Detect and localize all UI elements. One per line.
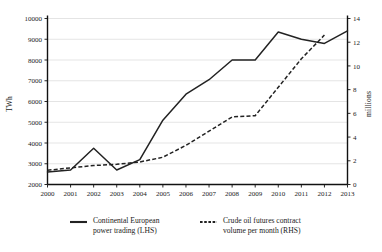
right-axis-tick-label: 8 (353, 86, 357, 94)
x-axis-tick-label: 2000 (41, 190, 56, 198)
x-axis-tick-label: 2005 (156, 190, 171, 198)
left-axis-tick-label: 10000 (25, 15, 43, 23)
dual-axis-line-chart: 2000300040005000600070008000900010000 02… (0, 0, 382, 252)
x-axis-tick-label: 2013 (341, 190, 356, 198)
x-axis-tick-label: 2011 (294, 190, 308, 198)
legend-label-line1: Continental European (93, 216, 160, 225)
left-axis-tick-label: 3000 (28, 160, 43, 168)
left-axis-tick-label: 6000 (28, 98, 43, 106)
right-axis-tick-label: 6 (353, 110, 357, 118)
left-axis-tick-label: 8000 (28, 57, 43, 65)
x-axis-tick-label: 2002 (87, 190, 102, 198)
x-axis-tick-label: 2009 (248, 190, 263, 198)
right-axis-tick-label: 12 (353, 39, 361, 47)
x-axis-tick-label: 2012 (317, 190, 332, 198)
legend-label-line2: power trading (LHS) (93, 226, 157, 235)
right-axis-tick-label: 4 (353, 134, 357, 142)
x-axis-tick-label: 2010 (271, 190, 286, 198)
left-axis-tick-label: 9000 (28, 36, 43, 44)
x-axis-tick-label: 2007 (202, 190, 217, 198)
right-axis-tick-label: 0 (353, 181, 357, 189)
left-axis-tick-label: 7000 (28, 77, 43, 85)
x-axis-tick-label: 2006 (179, 190, 194, 198)
x-axis-tick-label: 2001 (64, 190, 79, 198)
x-axis-tick-label: 2004 (133, 190, 148, 198)
x-axis-tick-label: 2003 (110, 190, 125, 198)
right-axis-tick-label: 10 (353, 63, 361, 71)
series-line-crude-oil (48, 35, 325, 170)
gridlines (48, 19, 348, 164)
legend-label-line2: volume per month (RHS) (223, 226, 301, 235)
left-axis-tick-label: 2000 (28, 181, 43, 189)
right-axis-tick-label: 2 (353, 157, 357, 165)
left-axis: 2000300040005000600070008000900010000 (25, 15, 48, 189)
x-axis-tick-label: 2008 (225, 190, 240, 198)
right-axis: 02468101214 (348, 15, 361, 189)
chart-legend: Continental Europeanpower trading (LHS)C… (70, 216, 302, 235)
legend-label-line1: Crude oil futures contract (223, 216, 302, 225)
x-axis: 2000200120022003200420052006200720082009… (41, 185, 356, 199)
left-axis-title: TWh (5, 96, 14, 112)
right-axis-title: millions (364, 91, 373, 117)
left-axis-tick-label: 4000 (28, 140, 43, 148)
chart-container: 2000300040005000600070008000900010000 02… (0, 0, 382, 252)
left-axis-tick-label: 5000 (28, 119, 43, 127)
right-axis-tick-label: 14 (353, 15, 361, 23)
